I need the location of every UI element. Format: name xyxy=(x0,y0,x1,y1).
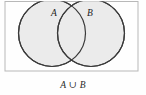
figure-caption: A ∪ B xyxy=(59,80,86,90)
venn-diagram-canvas: A B A ∪ B xyxy=(0,0,146,95)
set-b-label: B xyxy=(87,8,93,18)
venn-diagram-figure: A B A ∪ B xyxy=(0,0,146,95)
set-a-label: A xyxy=(50,8,57,18)
set-circles-group xyxy=(19,0,125,67)
